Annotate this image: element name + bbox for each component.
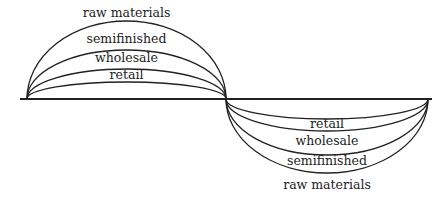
bottom-arc-label: semifinished [287,153,367,168]
top-arc-label: semifinished [87,31,167,46]
top-arc-label: raw materials [83,5,171,20]
diagram-canvas: raw materialssemifinishedwholesaleretail… [0,0,448,200]
arc-diagram: raw materialssemifinishedwholesaleretail… [0,0,448,200]
top-arc-label: retail [110,67,144,82]
bottom-arc-label: retail [310,116,344,131]
bottom-arcs-group: retailwholesalesemifinishedraw materials [226,99,428,192]
bottom-arc-label: wholesale [296,133,359,148]
top-arc-retail [27,82,226,99]
bottom-arc-label: raw materials [283,177,371,192]
top-arc-label: wholesale [95,50,158,65]
top-arcs-group: raw materialssemifinishedwholesaleretail [27,5,226,99]
